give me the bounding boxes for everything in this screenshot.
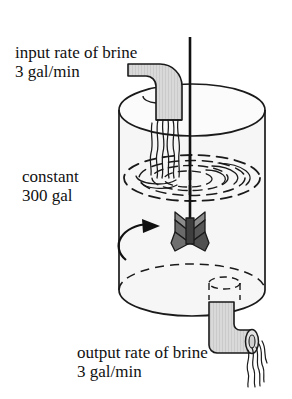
outflow-strand-5: [262, 341, 267, 363]
outlet-spout-bore: [249, 335, 255, 348]
tank-rim: [119, 84, 265, 136]
input-rate-line-1: input rate of brine: [15, 43, 137, 62]
impeller-hub: [186, 218, 194, 244]
tank-body-fill: [119, 110, 265, 316]
output-rate-label: output rate of brine3 gal/min: [77, 343, 208, 381]
constant-volume-line-2: 300 gal: [22, 186, 73, 205]
constant-volume-line-1: constant: [22, 167, 79, 186]
figure-canvas: input rate of brine3 gal/min constant300…: [0, 0, 292, 399]
input-rate-line-2: 3 gal/min: [15, 62, 80, 81]
input-rate-label: input rate of brine3 gal/min: [15, 43, 137, 81]
output-rate-line-2: 3 gal/min: [77, 362, 142, 381]
tank: [119, 84, 265, 316]
output-rate-line-1: output rate of brine: [77, 343, 208, 362]
outflow-strand-2: [256, 347, 260, 386]
outflow-strand-4: [247, 350, 249, 387]
constant-volume-label: constant300 gal: [22, 167, 79, 205]
